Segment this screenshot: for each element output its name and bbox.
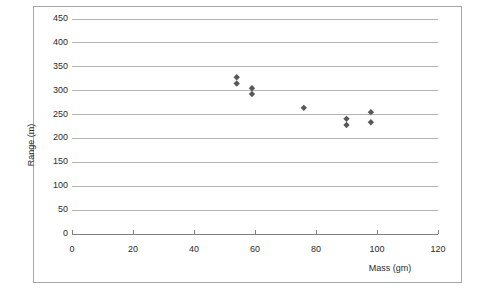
data-point-markers [234, 74, 375, 128]
x-axis-tick-marks [72, 230, 438, 234]
x-tick-label: 0 [52, 245, 92, 254]
y-tick-label: 400 [36, 38, 68, 47]
x-tick-label: 120 [418, 245, 458, 254]
x-tick-label: 100 [357, 245, 397, 254]
x-tick-label: 60 [235, 245, 275, 254]
scatter-plot [0, 0, 494, 299]
x-tick-label: 40 [174, 245, 214, 254]
y-tick-label: 350 [36, 62, 68, 71]
y-tick-label: 100 [36, 181, 68, 190]
chart-screenshot: 050100150200250300350400450 020406080100… [0, 0, 494, 299]
y-tick-label: 50 [36, 205, 68, 214]
gridlines [72, 19, 438, 210]
y-tick-label: 450 [36, 14, 68, 23]
x-tick-label: 80 [296, 245, 336, 254]
y-tick-label: 300 [36, 86, 68, 95]
y-tick-label: 200 [36, 133, 68, 142]
x-tick-label: 20 [113, 245, 153, 254]
y-axis-title: Range (m) [26, 100, 36, 190]
y-tick-label: 250 [36, 110, 68, 119]
y-tick-label: 0 [36, 229, 68, 238]
y-tick-label: 150 [36, 157, 68, 166]
x-axis-title: Mass (gm) [330, 263, 450, 273]
